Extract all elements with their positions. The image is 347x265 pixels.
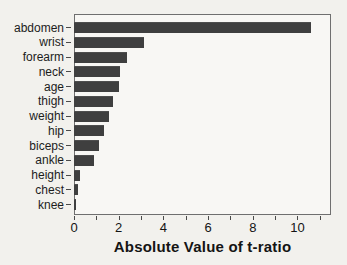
bar-row: knee [0,199,331,210]
bar-track [74,22,331,33]
bar-knee [74,199,76,210]
x-tick-label: 0 [70,221,77,234]
bar-track [74,66,331,77]
bar-row: abdomen [0,22,331,33]
bar-row: height [0,170,331,181]
x-tick-mark [230,216,231,220]
y-tick-mark [66,101,71,102]
bar-track [74,155,331,166]
y-tick-mark [66,130,71,131]
y-tick-mark [66,57,71,58]
category-label: hip [0,125,66,137]
bar-biceps [74,140,99,151]
x-tick-mark [96,216,97,220]
y-tick-mark [66,71,71,72]
x-tick-mark [186,216,187,220]
bar-row: thigh [0,96,331,107]
category-label: chest [0,184,66,196]
category-label: thigh [0,95,66,107]
chart-rows: abdomenwristforearmneckagethighweighthip… [0,14,331,215]
x-tick-label: 4 [160,221,167,234]
category-label: wrist [0,36,66,48]
category-label: age [0,81,66,93]
category-label: height [0,169,66,181]
bar-hip [74,125,104,136]
x-tick-label: 6 [204,221,211,234]
category-label: forearm [0,51,66,63]
bar-row: weight [0,111,331,122]
bar-height [74,170,80,181]
x-axis-title: Absolute Value of t-ratio [74,238,331,255]
category-label: weight [0,110,66,122]
x-tick-mark [275,216,276,220]
y-tick-mark [66,86,71,87]
bar-track [74,52,331,63]
bar-row: hip [0,125,331,136]
bar-track [74,111,331,122]
bar-track [74,184,331,195]
bar-chest [74,184,78,195]
bar-thigh [74,96,113,107]
bar-neck [74,66,120,77]
x-tick-mark [141,216,142,220]
bar-row: age [0,81,331,92]
bar-row: biceps [0,140,331,151]
bar-ankle [74,155,94,166]
bar-track [74,96,331,107]
bar-abdomen [74,22,311,33]
y-tick-mark [66,204,71,205]
x-tick-mark [320,216,321,220]
bar-track [74,199,331,210]
y-tick-mark [66,175,71,176]
x-axis-tick-labels: 0246810 [74,221,331,235]
x-tick-label: 10 [290,221,304,234]
y-tick-mark [66,189,71,190]
bar-track [74,37,331,48]
category-label: abdomen [0,22,66,34]
bar-row: forearm [0,52,331,63]
x-tick-label: 8 [249,221,256,234]
bar-track [74,125,331,136]
category-label: ankle [0,154,66,166]
bar-row: ankle [0,155,331,166]
bar-weight [74,111,109,122]
bar-track [74,81,331,92]
bar-wrist [74,37,144,48]
y-tick-mark [66,145,71,146]
category-label: biceps [0,140,66,152]
bar-row: chest [0,184,331,195]
bar-age [74,81,119,92]
y-tick-mark [66,116,71,117]
x-tick-label: 2 [115,221,122,234]
category-label: neck [0,66,66,78]
bar-row: wrist [0,37,331,48]
bar-track [74,170,331,181]
bar-chart-figure: abdomenwristforearmneckagethighweighthip… [0,0,347,265]
bar-row: neck [0,66,331,77]
y-tick-mark [66,160,71,161]
category-label: knee [0,199,66,211]
bar-track [74,140,331,151]
y-tick-mark [66,42,71,43]
y-tick-mark [66,27,71,28]
bar-forearm [74,52,127,63]
